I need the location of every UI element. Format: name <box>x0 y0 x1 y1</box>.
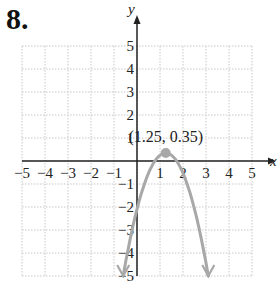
x-tick-label: −4 <box>37 165 53 181</box>
x-tick-label: 1 <box>156 165 164 181</box>
parabola-graph: xy −5−4−3−2−11234554321−1−2−3−4−5 (1.25,… <box>0 0 278 294</box>
vertex-label: (1.25, 0.35) <box>128 128 203 146</box>
parabola-path <box>123 153 208 276</box>
x-tick-label: −5 <box>14 165 30 181</box>
vertex-dot <box>161 148 171 158</box>
x-tick-label: 5 <box>248 165 256 181</box>
y-tick-label: 4 <box>127 61 135 77</box>
vertex-annotation: (1.25, 0.35) <box>128 128 203 158</box>
y-tick-label: 3 <box>127 84 135 100</box>
y-axis-label: y <box>126 1 135 17</box>
y-tick-label: −2 <box>118 199 134 215</box>
y-tick-label: 5 <box>127 38 135 54</box>
x-tick-label: 4 <box>225 165 233 181</box>
x-tick-label: −2 <box>83 165 99 181</box>
x-axis-label: x <box>269 153 277 169</box>
y-tick-label: 2 <box>127 107 135 123</box>
x-tick-label: 3 <box>202 165 210 181</box>
x-tick-label: −3 <box>60 165 76 181</box>
y-tick-label: −1 <box>118 176 134 192</box>
